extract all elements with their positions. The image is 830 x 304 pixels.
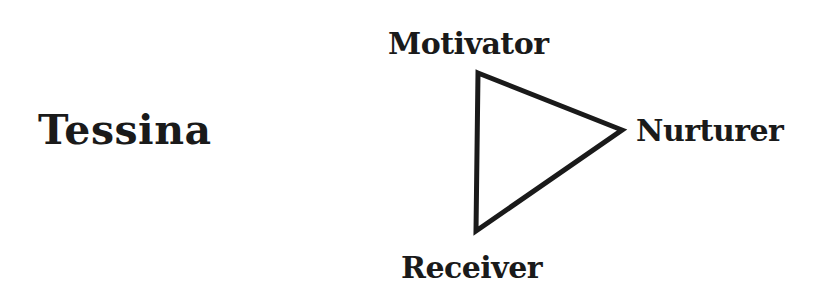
vertex-label-motivator: Motivator: [388, 29, 549, 59]
vertex-label-receiver: Receiver: [401, 253, 542, 283]
role-triangle-shape: [476, 73, 622, 231]
vertex-label-nurturer: Nurturer: [636, 116, 783, 146]
